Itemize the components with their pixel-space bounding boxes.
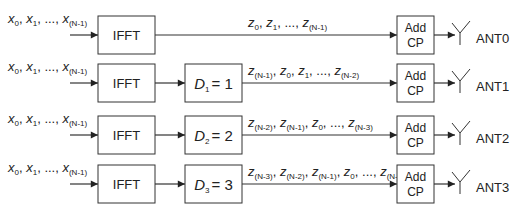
input-symbols-label: x0, x1, ..., x(N-1) — [7, 11, 88, 28]
add-cp-label-line2: CP — [407, 185, 424, 199]
signal-row-1: x0, x1, ..., x(N-1)IFFTD1= 1z(N-1), z0, … — [7, 59, 509, 102]
input-symbols-label: x0, x1, ..., x(N-1) — [7, 160, 88, 177]
output-sequence-label: z(N-1), z0, z1, ..., z(N-2) — [247, 63, 359, 80]
ifft-label: IFFT — [113, 76, 140, 91]
delay-label: D1= 1 — [194, 75, 233, 94]
ifft-label: IFFT — [113, 28, 140, 43]
antenna-icon — [452, 170, 470, 194]
input-symbols-label: x0, x1, ..., x(N-1) — [7, 111, 88, 128]
ifft-label: IFFT — [113, 128, 140, 143]
add-cp-label-line1: Add — [405, 21, 426, 35]
antenna-label: ANT3 — [476, 180, 509, 195]
input-symbols-label: x0, x1, ..., x(N-1) — [7, 59, 88, 76]
add-cp-label-line1: Add — [405, 121, 426, 135]
antenna-label: ANT2 — [476, 131, 509, 146]
add-cp-label-line2: CP — [407, 84, 424, 98]
antenna-label: ANT0 — [476, 31, 509, 46]
signal-row-2: x0, x1, ..., x(N-1)IFFTD2= 2z(N-2), z(N-… — [7, 111, 509, 154]
delay-label: D2= 2 — [194, 127, 233, 146]
ifft-label: IFFT — [113, 177, 140, 192]
output-sequence-label: z(N-2), z(N-1), z0, ..., z(N-3) — [247, 115, 373, 132]
antenna-icon — [452, 121, 470, 145]
signal-row-0: x0, x1, ..., x(N-1)IFFTz0, z1, ..., z(N-… — [7, 11, 509, 54]
add-cp-label-line1: Add — [405, 69, 426, 83]
signal-row-3: x0, x1, ..., x(N-1)IFFTD3= 3z(N-3), z(N-… — [7, 160, 509, 203]
cdd-diagram: x0, x1, ..., x(N-1)IFFTz0, z1, ..., z(N-… — [0, 0, 520, 212]
add-cp-label-line2: CP — [407, 136, 424, 150]
output-sequence-label: z0, z1, ..., z(N-1) — [247, 15, 328, 32]
antenna-label: ANT1 — [476, 79, 509, 94]
add-cp-label-line2: CP — [407, 36, 424, 50]
add-cp-label-line1: Add — [405, 170, 426, 184]
antenna-icon — [452, 21, 470, 45]
output-sequence-label: z(N-3), z(N-2), z(N-1), z0, ..., z(N-4) — [247, 164, 405, 181]
antenna-icon — [452, 69, 470, 93]
delay-label: D3= 3 — [194, 176, 233, 195]
